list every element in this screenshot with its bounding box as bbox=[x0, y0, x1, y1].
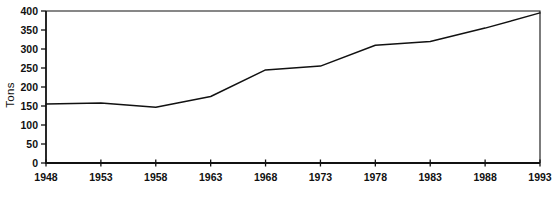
y-tick-label: 350 bbox=[20, 24, 38, 36]
y-tick-label: 250 bbox=[20, 62, 38, 74]
y-tick-label: 0 bbox=[32, 157, 38, 169]
x-tick-label: 1963 bbox=[199, 171, 223, 183]
x-tick-label: 1988 bbox=[473, 171, 497, 183]
y-tick-label: 200 bbox=[20, 81, 38, 93]
y-tick-label: 100 bbox=[20, 119, 38, 131]
line-chart: 050100150200250300350400 194819531958196… bbox=[0, 0, 556, 198]
y-axis-title: Tons bbox=[4, 82, 16, 108]
x-tick-label: 1973 bbox=[309, 171, 333, 183]
data-series-line bbox=[46, 13, 540, 107]
x-axis-tick-labels: 1948195319581963196819731978198319881993 bbox=[34, 171, 552, 183]
x-tick-label: 1948 bbox=[34, 171, 58, 183]
x-tick-label: 1983 bbox=[419, 171, 443, 183]
x-tick-label: 1978 bbox=[364, 171, 388, 183]
x-tick-label: 1968 bbox=[254, 171, 278, 183]
y-tick-label: 50 bbox=[26, 138, 38, 150]
x-tick-label: 1953 bbox=[89, 171, 113, 183]
x-tick-label: 1958 bbox=[144, 171, 168, 183]
axes-left-bottom bbox=[46, 11, 540, 163]
chart-container: 050100150200250300350400 194819531958196… bbox=[0, 0, 556, 198]
y-axis-tick-labels: 050100150200250300350400 bbox=[20, 5, 38, 169]
x-tick-label: 1993 bbox=[528, 171, 552, 183]
plot-frame-top-right bbox=[46, 11, 540, 163]
y-tick-label: 400 bbox=[20, 5, 38, 17]
y-tick-label: 300 bbox=[20, 43, 38, 55]
y-tick-label: 150 bbox=[20, 100, 38, 112]
